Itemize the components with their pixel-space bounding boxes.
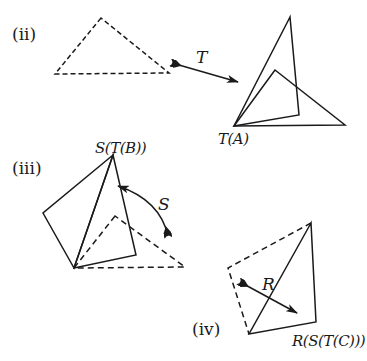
- panel-ii: [55, 17, 345, 126]
- image-label-s-t-b: S(T(B)): [95, 141, 146, 156]
- transform-label-r: R: [262, 276, 275, 293]
- image-triangle-wide: [234, 70, 345, 126]
- panel-label-iv: (iv): [192, 321, 220, 338]
- panel-label-ii: (ii): [12, 26, 36, 43]
- transform-label-t: T: [196, 49, 207, 66]
- rotated-triangle-right: [74, 155, 136, 268]
- image-triangle-tall: [234, 17, 299, 126]
- image-label-r-s-t-c: R(S(T(C))): [292, 334, 365, 349]
- image-label-t-a: T(A): [218, 132, 249, 147]
- source-triangle-dashed: [55, 18, 169, 74]
- reflected-triangle: [249, 223, 316, 334]
- transformation-diagram: [0, 0, 367, 361]
- panel-label-iii: (iii): [12, 160, 42, 177]
- transform-label-s: S: [158, 196, 170, 213]
- rotated-triangle-left: [43, 155, 113, 268]
